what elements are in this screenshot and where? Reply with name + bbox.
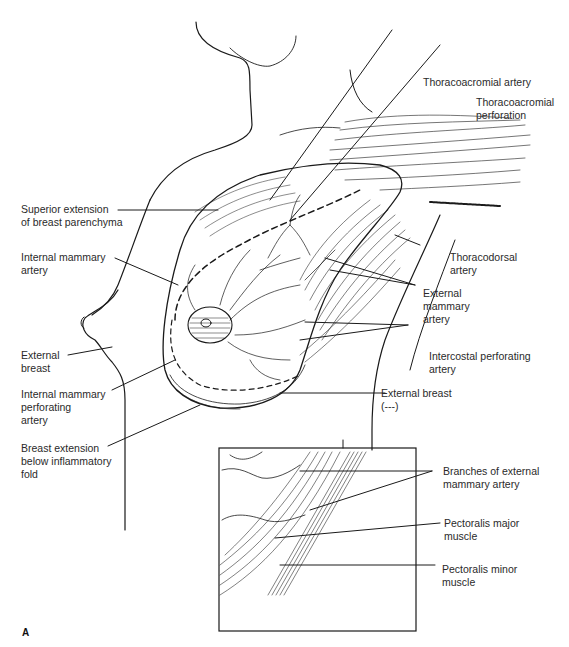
label-pectoralis-minor-line2: muscle <box>442 576 475 589</box>
inset-pectoralis-minor-fibres <box>268 452 366 595</box>
label-branches-external-mammary-line2: mammary artery <box>443 478 519 491</box>
tendon-line <box>430 202 500 206</box>
label-thoracoacromial-perforation-line1: Thoracoacromial <box>476 96 554 109</box>
label-superior-extension-line2: of breast parenchyma <box>21 216 123 229</box>
inset-box <box>219 448 416 631</box>
label-thoracodorsal-artery-line2: artery <box>450 264 477 277</box>
label-pectoralis-major-line1: Pectoralis major <box>444 517 519 530</box>
neck-right-outline <box>350 70 372 112</box>
label-internal-mammary-perforating-line3: artery <box>21 414 48 427</box>
inset-leader-lines <box>275 471 440 565</box>
label-internal-mammary-perforating-line1: Internal mammary <box>21 388 106 401</box>
label-external-mammary-artery-line1: External <box>423 287 462 300</box>
deltoid-muscle-lines <box>330 115 530 190</box>
label-intercostal-perforating-line1: Intercostal perforating <box>429 350 531 363</box>
breast-outline <box>163 163 402 408</box>
label-internal-mammary-artery-line1: Internal mammary <box>21 251 106 264</box>
label-thoracodorsal-artery-line1: Thoracodorsal <box>450 251 517 264</box>
label-thoracoacromial-artery: Thoracoacromial artery <box>423 76 531 89</box>
jaw-outline <box>230 36 296 66</box>
label-internal-mammary-perforating-line2: perforating <box>21 401 71 414</box>
label-branches-external-mammary-line1: Branches of external <box>443 465 539 478</box>
profile-breast-outline <box>83 290 125 530</box>
upper-breast-hatching <box>195 177 300 236</box>
arterial-network <box>188 195 336 380</box>
label-external-breast-right-line1: External breast <box>381 387 452 400</box>
anatomy-figure: Thoracoacromial artery Thoracoacromial p… <box>0 0 569 647</box>
label-breast-extension-line3: fold <box>21 468 38 481</box>
label-external-mammary-artery-line3: artery <box>423 313 450 326</box>
panel-letter: A <box>22 627 29 638</box>
torso-right-outline <box>372 215 440 450</box>
label-internal-mammary-artery-line2: artery <box>21 264 48 277</box>
label-external-mammary-artery-line2: mammary <box>423 300 470 313</box>
neck-left-outline <box>150 22 252 200</box>
label-pectoralis-major-line2: muscle <box>444 530 477 543</box>
inframammary-fold-1 <box>170 365 305 404</box>
external-breast-dashed-lower <box>171 320 300 390</box>
label-breast-extension-line2: below inflammatory <box>21 455 111 468</box>
label-thoracoacromial-perforation-line2: perforation <box>476 109 526 122</box>
label-pectoralis-minor-line1: Pectoralis minor <box>442 563 517 576</box>
label-external-breast-left-line1: External <box>21 349 60 362</box>
label-external-breast-left-line2: breast <box>21 362 50 375</box>
label-superior-extension-line1: Superior extension <box>21 203 109 216</box>
label-breast-extension-line1: Breast extension <box>21 442 99 455</box>
label-intercostal-perforating-line2: artery <box>429 363 456 376</box>
label-external-breast-right-line2: (---) <box>381 400 398 413</box>
clavicle-line <box>280 127 340 135</box>
inset-vessels <box>222 452 305 522</box>
